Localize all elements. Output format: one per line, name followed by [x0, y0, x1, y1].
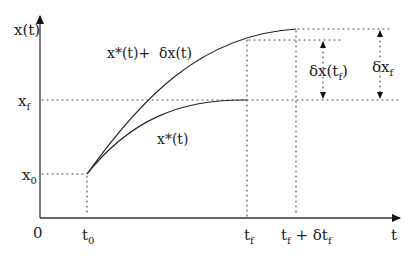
delta-x-tf-label: δx(tf) [309, 62, 348, 82]
origin-label: 0 [33, 224, 43, 242]
optimal-curve-label: x*(t) [157, 131, 188, 147]
tf-plus-delta-label: tf + δtf [281, 226, 333, 246]
delta-xf-arrow-up [377, 30, 383, 37]
perturbed-curve-label: x*(t)+ δx(t) [107, 45, 192, 61]
delta-xf-arrow-down [377, 92, 383, 99]
t0-label: t0 [82, 226, 94, 246]
xf-label: xf [18, 92, 31, 112]
tf-label: tf [244, 226, 255, 246]
x-axis-label: t [391, 226, 397, 244]
variational-diagram: x(t) t 0 xf x0 t0 tf tf + δtf x*(t)+ δx(… [0, 0, 417, 256]
delta-x-tf-arrow-up [320, 41, 326, 48]
delta-x-tf-arrow-down [320, 92, 326, 99]
delta-xf-label: δxf [372, 58, 395, 78]
x0-label: x0 [22, 166, 37, 186]
y-axis-label: x(t) [14, 21, 40, 39]
